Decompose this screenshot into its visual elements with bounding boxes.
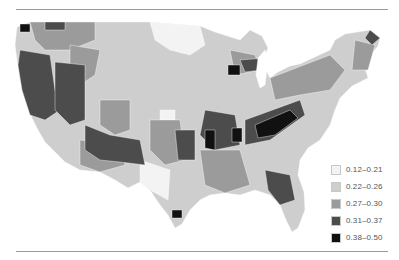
legend-swatch xyxy=(331,199,341,209)
legend-item: 0.31–0.37 xyxy=(331,212,383,229)
legend-swatch xyxy=(331,182,341,192)
legend-label: 0.12–0.21 xyxy=(346,165,383,174)
map-regions xyxy=(15,22,380,232)
legend-swatch xyxy=(331,165,341,175)
legend-label: 0.38–0.50 xyxy=(346,233,383,242)
legend-label: 0.27–0.30 xyxy=(346,199,383,208)
legend-item: 0.12–0.21 xyxy=(331,161,383,178)
bottom-rule xyxy=(16,251,388,252)
us-landmass xyxy=(15,22,380,232)
legend-label: 0.31–0.37 xyxy=(346,216,383,225)
map-legend: 0.12–0.21 0.22–0.26 0.27–0.30 0.31–0.37 … xyxy=(331,161,383,246)
legend-item: 0.38–0.50 xyxy=(331,229,383,246)
legend-swatch xyxy=(331,233,341,243)
legend-item: 0.22–0.26 xyxy=(331,178,383,195)
legend-swatch xyxy=(331,216,341,226)
legend-item: 0.27–0.30 xyxy=(331,195,383,212)
legend-label: 0.22–0.26 xyxy=(346,182,383,191)
